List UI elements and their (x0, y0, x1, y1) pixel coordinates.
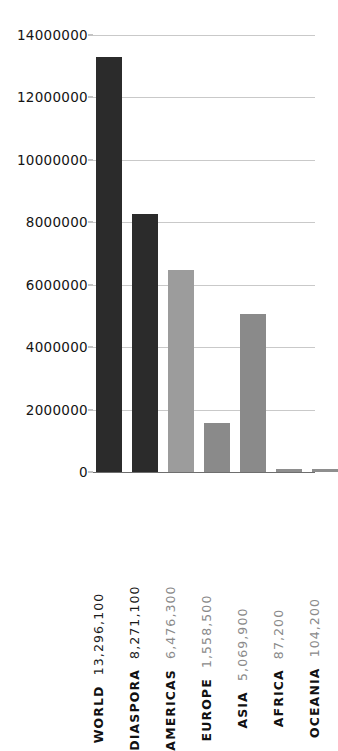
bar-world (96, 57, 122, 472)
value-label: 5,069,900 (235, 607, 250, 681)
x-axis-label-group: ASIA 5,069,900 (243, 478, 263, 668)
value-label: 8,271,100 (127, 585, 142, 659)
y-axis-tick-label: 14000000 (0, 27, 88, 43)
value-label: 13,296,100 (91, 593, 106, 676)
category-label: AMERICAS (163, 669, 178, 751)
value-label: 87,200 (271, 609, 286, 659)
gridline (93, 97, 315, 98)
bar-africa (276, 469, 302, 472)
axis-baseline (93, 472, 315, 473)
x-axis-label-group: EUROPE 1,558,500 (207, 478, 227, 668)
value-label: 104,200 (307, 598, 322, 657)
category-label: AFRICA (271, 669, 286, 727)
bar-europe (204, 423, 230, 472)
bar-oceania (312, 469, 338, 472)
y-axis-tick-label: 8000000 (0, 214, 88, 230)
bar-asia (240, 314, 266, 472)
x-axis-label-group: AFRICA 87,200 (279, 478, 299, 668)
gridline (93, 410, 315, 411)
x-axis-label-group: AMERICAS 6,476,300 (171, 478, 191, 668)
x-axis-labels: WORLD 13,296,100DIASPORA 8,271,100AMERIC… (93, 478, 335, 670)
gridline (93, 35, 315, 36)
x-axis-label-group: WORLD 13,296,100 (99, 478, 119, 668)
category-label: EUROPE (199, 678, 214, 741)
category-label: WORLD (91, 685, 106, 743)
category-label: ASIA (235, 691, 250, 728)
y-axis-tick-label: 2000000 (0, 402, 88, 418)
bar-americas (168, 270, 194, 472)
plot-area (93, 35, 315, 472)
category-label: OCEANIA (307, 668, 322, 739)
bar-diaspora (132, 214, 158, 472)
y-axis-tick-label: 12000000 (0, 89, 88, 105)
x-axis-label-group: OCEANIA 104,200 (315, 478, 335, 668)
gridline (93, 222, 315, 223)
y-axis-tick-label: 0 (0, 464, 88, 480)
gridline (93, 285, 315, 286)
value-label: 1,558,500 (199, 595, 214, 669)
gridline (93, 347, 315, 348)
gridline (93, 160, 315, 161)
x-axis-label-group: DIASPORA 8,271,100 (135, 478, 155, 668)
y-axis-tick-label: 10000000 (0, 152, 88, 168)
y-axis-tick-label: 6000000 (0, 277, 88, 293)
value-label: 6,476,300 (163, 585, 178, 659)
y-axis-tick-label: 4000000 (0, 339, 88, 355)
category-label: DIASPORA (127, 669, 142, 751)
